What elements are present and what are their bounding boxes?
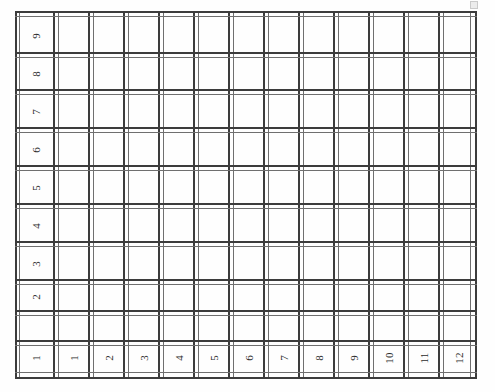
column-label-10: 10 [374,344,404,372]
grid-vline-10 [368,11,370,379]
column-label-9: 9 [339,344,369,372]
grid-vline-9 [333,11,335,379]
grid-hline-5 [15,203,477,205]
grid-vline-2-inner [93,11,94,379]
grid-hline-9 [15,340,477,342]
row-label-9: 9 [21,21,51,51]
grid-vline-7 [263,11,265,379]
grid-hline-4-inner [15,170,477,171]
grid-hline-2 [15,89,477,91]
grid-border-left-inner [19,11,20,379]
row-label-2: 2 [22,282,50,312]
scanned-page: 9 8 7 6 5 4 3 2 1 1 2 3 4 5 6 7 8 9 10 1… [0,0,495,392]
grid-vline-7-inner [268,11,269,379]
grid-hline-6-inner [15,246,477,247]
grid-border-top-inner [15,16,477,17]
grid-vline-11-inner [408,11,409,379]
grid-vline-12 [438,11,440,379]
grid-border-top [15,11,477,13]
grid-vline-1-inner [58,11,59,379]
row-label-3: 3 [21,249,51,279]
scan-speck-artifact [470,1,478,9]
row-label-8: 8 [21,59,51,89]
grid-border-bottom [15,377,477,379]
grid-hline-3 [15,127,477,129]
grid-vline-12-inner [443,11,444,379]
grid-table: 9 8 7 6 5 4 3 2 1 1 2 3 4 5 6 7 8 9 10 1… [15,11,477,379]
column-label-4: 4 [164,344,194,372]
row-label-6: 6 [21,135,51,165]
grid-hline-8 [15,310,477,312]
grid-hline-1-inner [15,57,477,58]
grid-vline-4-inner [163,11,164,379]
grid-hline-7 [15,279,477,281]
row-label-1: 1 [21,343,51,373]
column-label-5: 5 [199,344,229,372]
column-label-7: 7 [269,344,299,372]
grid-vline-3 [123,11,125,379]
grid-vline-10-inner [373,11,374,379]
grid-hline-2-inner [15,94,477,95]
row-label-5: 5 [21,173,51,203]
column-label-1: 1 [59,344,89,372]
grid-border-right-inner [470,11,471,379]
grid-hline-1 [15,52,477,54]
grid-border-right [475,11,477,379]
column-label-2: 2 [94,344,124,372]
grid-hline-8-inner [15,315,477,316]
grid-vline-4 [158,11,160,379]
grid-border-bottom-inner [15,372,477,373]
grid-hline-4 [15,165,477,167]
grid-vline-11 [403,11,405,379]
column-label-11: 11 [409,344,439,372]
row-label-7: 7 [21,97,51,127]
grid-vline-8 [298,11,300,379]
grid-hline-5-inner [15,208,477,209]
grid-vline-8-inner [303,11,304,379]
grid-vline-6 [228,11,230,379]
grid-vline-1 [53,11,55,379]
grid-hline-7-inner [15,284,477,285]
grid-hline-3-inner [15,132,477,133]
grid-border-left [15,11,17,379]
grid-hline-6 [15,241,477,243]
grid-vline-9-inner [338,11,339,379]
column-label-6: 6 [234,344,264,372]
column-label-8: 8 [304,344,334,372]
row-label-4: 4 [21,211,51,241]
grid-vline-5 [193,11,195,379]
grid-vline-2 [88,11,90,379]
grid-vline-6-inner [233,11,234,379]
column-label-12: 12 [444,344,474,372]
grid-vline-5-inner [198,11,199,379]
grid-vline-3-inner [128,11,129,379]
column-label-3: 3 [129,344,159,372]
